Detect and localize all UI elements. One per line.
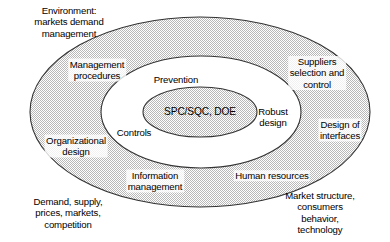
inner-core-ellipse: [143, 87, 257, 137]
ellipse-rings-graphic: [0, 0, 390, 242]
concentric-ellipse-diagram: SPC/SQC, DOE Prevention Robust design Co…: [0, 0, 390, 242]
